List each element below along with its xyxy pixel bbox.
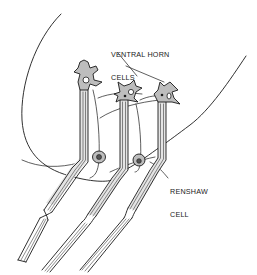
renshaw-cell-1: [93, 151, 106, 163]
ventral-horn-cell-1: [74, 60, 102, 90]
renshaw-label-line-2: CELL: [170, 211, 208, 219]
renshaw-cell-label: RENSHAW CELL: [170, 173, 208, 226]
motor-axon-1: [18, 90, 88, 262]
renshaw-output-1: [22, 160, 78, 166]
renshaw-output-2: [110, 157, 155, 172]
ventral-horn-label-line-1: VENTRAL HORN: [111, 51, 169, 59]
renshaw-cell-2: [133, 154, 145, 166]
renshaw-label-line-1: RENSHAW: [170, 188, 208, 196]
recurrent-collateral-1: [90, 90, 99, 178]
ventral-horn-label-line-2: CELLS: [111, 74, 169, 82]
connecting-fiber-2: [100, 100, 160, 118]
ventral-horn-cells-label: VENTRAL HORN CELLS: [111, 36, 169, 89]
